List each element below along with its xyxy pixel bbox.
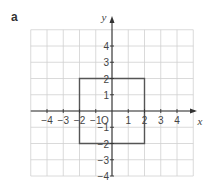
y-axis-arrow-icon [110,16,115,23]
y-tick-label: −4 [98,171,110,182]
x-tick-label: 4 [174,115,180,126]
coordinate-grid: −4−3−2−112344321−1−2−3−4Oxy [0,0,212,190]
y-tick-label: 4 [103,41,109,52]
x-tick-label: 3 [158,115,164,126]
x-tick-label: 1 [125,115,131,126]
y-tick-label: 2 [103,74,109,85]
tick-labels: −4−3−2−112344321−1−2−3−4Oxy [41,11,202,182]
y-axis-label: y [101,11,107,23]
x-tick-label: −4 [41,115,53,126]
y-tick-label: −2 [98,139,110,150]
y-tick-label: −3 [98,155,110,166]
x-tick-label: −2 [74,115,86,126]
x-axis-label: x [197,115,203,127]
x-tick-label: −3 [58,115,70,126]
x-tick-label: 2 [142,115,148,126]
y-tick-label: 3 [103,57,109,68]
y-tick-label: 1 [103,90,109,101]
origin-label: O [101,115,109,126]
axes [31,16,197,176]
